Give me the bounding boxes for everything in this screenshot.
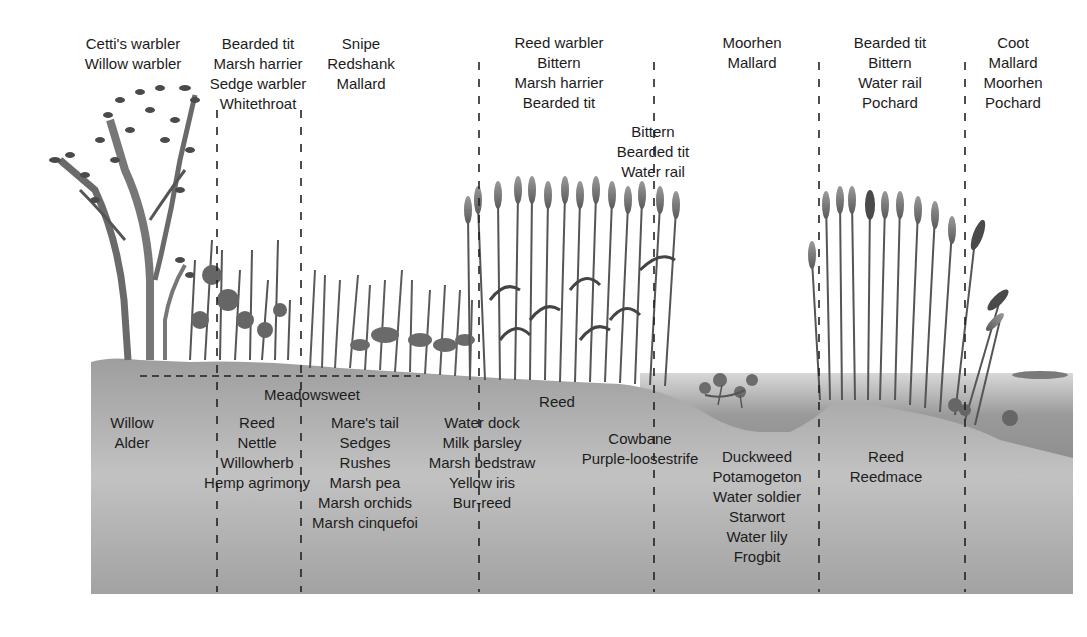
birds-fen-tall-herb: Bearded tit Marsh harrier Sedge warbler … (210, 34, 307, 114)
reedbed-vegetation (464, 176, 680, 386)
birds-reedmace-bed: Bearded tit Bittern Water rail Pochard (854, 33, 927, 113)
plants-reed-center: Reed (539, 392, 575, 412)
plants-tall-herb: Reed Nettle Willowherb Hemp agrimony (204, 413, 310, 493)
tall-herb-vegetation (190, 240, 290, 360)
birds-open-water: Coot Mallard Moorhen Pochard (983, 33, 1042, 113)
plants-meadowsweet: Meadowsweet (264, 385, 360, 405)
birds-open-pool: Moorhen Mallard (722, 33, 781, 73)
birds-reedbed: Reed warbler Bittern Marsh harrier Beard… (514, 33, 603, 113)
fen-meadow-vegetation (310, 270, 475, 377)
plants-reedmace-zone: Reed Reedmace (850, 447, 923, 487)
birds-wet-meadow: Snipe Redshank Mallard (327, 34, 395, 94)
plants-trees: Willow Alder (110, 413, 153, 453)
plants-pool-aquatics: Duckweed Potamogeton Water soldier Starw… (712, 447, 801, 567)
plants-reedbed-margin: Cowbane Purple-loosestrife (582, 429, 699, 469)
birds-willow-carr: Cetti's warbler Willow warbler (85, 34, 182, 74)
plants-fen-meadow: Mare's tail Sedges Rushes Marsh pea Mars… (312, 413, 418, 533)
willow-alder-trees (49, 85, 200, 360)
plants-marsh-edge: Water dock Milk parsley Marsh bedstraw Y… (429, 413, 536, 513)
birds-reedbed-edge: Bittern Bearded tit Water rail (617, 122, 690, 182)
